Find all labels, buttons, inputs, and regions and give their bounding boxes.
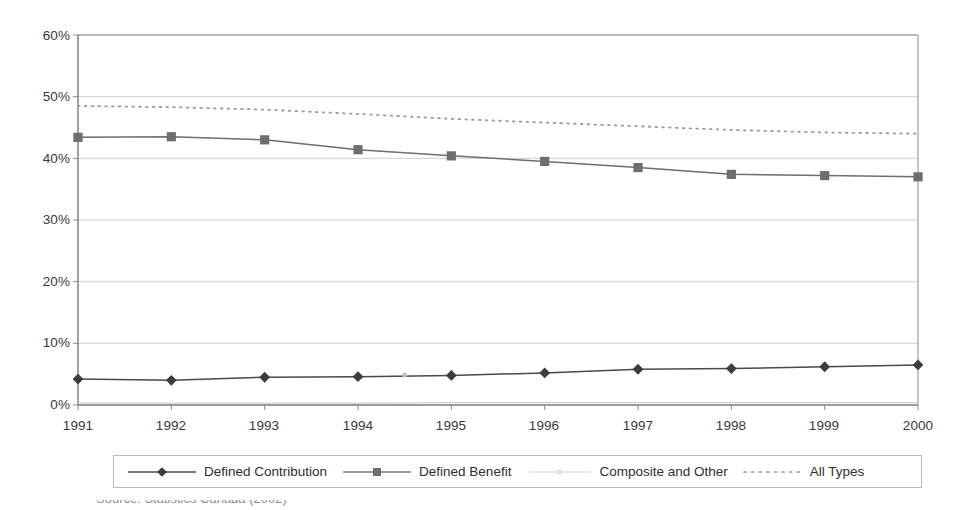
source-caption: Source: Statistics Canada (2002) — [96, 500, 426, 510]
series-line-all-types — [78, 106, 918, 134]
faint-line-key — [527, 465, 593, 479]
legend-item-composite-and-other: Composite and Other — [527, 456, 727, 487]
series-line-composite-and-other — [78, 403, 918, 404]
legend-label: Defined Benefit — [419, 464, 511, 479]
marker-defined-benefit — [820, 171, 829, 180]
marker-defined-contribution — [446, 370, 457, 381]
marker-defined-contribution — [539, 368, 550, 379]
axis-ticks — [73, 35, 918, 410]
marker-defined-benefit — [260, 135, 269, 144]
marker-defined-contribution — [259, 372, 270, 383]
marker-composite-and-other — [402, 373, 407, 378]
pension-coverage-line-chart: 60% 50% 40% 30% 20% 10% 0% 1991 1992 199… — [0, 0, 955, 510]
marker-defined-benefit — [167, 132, 176, 141]
marker-defined-benefit — [540, 157, 549, 166]
marker-defined-contribution — [633, 364, 644, 375]
legend-item-all-types: All Types — [742, 456, 865, 487]
marker-defined-contribution — [913, 360, 924, 371]
marker-defined-contribution — [166, 375, 177, 386]
data-series-group — [73, 106, 924, 403]
marker-defined-contribution — [73, 374, 84, 385]
marker-defined-benefit — [633, 163, 642, 172]
dotted-line-key — [742, 465, 804, 479]
legend-item-defined-benefit: Defined Benefit — [341, 456, 511, 487]
legend-item-defined-contribution: Defined Contribution — [126, 456, 327, 487]
marker-defined-benefit — [73, 133, 82, 142]
square-line-key — [341, 465, 413, 479]
marker-defined-benefit — [913, 172, 922, 181]
chart-legend: Defined Contribution Defined Benefit — [113, 455, 922, 488]
marker-defined-contribution — [353, 371, 364, 382]
marker-defined-benefit — [447, 151, 456, 160]
marker-defined-benefit — [727, 170, 736, 179]
legend-label: Defined Contribution — [204, 464, 327, 479]
marker-defined-contribution — [819, 361, 830, 372]
diamond-line-key — [126, 465, 198, 479]
gridlines — [78, 35, 918, 343]
marker-defined-contribution — [726, 363, 737, 374]
series-line-defined-benefit — [78, 137, 918, 177]
plot-area — [0, 0, 955, 510]
legend-label: Composite and Other — [599, 464, 727, 479]
legend-label: All Types — [810, 464, 865, 479]
series-line-defined-contribution — [78, 365, 918, 380]
marker-defined-benefit — [353, 145, 362, 154]
